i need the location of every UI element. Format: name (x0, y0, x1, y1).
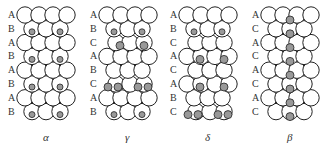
interstitial-atom (220, 55, 228, 63)
interstitial-atom (286, 30, 294, 38)
interstitial-atom (286, 16, 294, 24)
interstitial-atom (140, 42, 148, 50)
atom-stack-beta (244, 0, 326, 155)
panel-delta: ABCACABCδ (162, 0, 244, 155)
phase-label: δ (205, 131, 210, 143)
interstitial-atom (220, 83, 228, 91)
interstitial-atom (219, 29, 225, 35)
interstitial-atom (104, 83, 112, 91)
atom-circle (303, 7, 319, 23)
phase-label: α (43, 131, 49, 143)
interstitial-atom (286, 71, 294, 79)
interstitial-atom (29, 56, 35, 62)
interstitial-atom (184, 111, 192, 119)
atom-circle (221, 7, 237, 23)
interstitial-atom (57, 29, 63, 35)
interstitial-atom (286, 85, 294, 93)
interstitial-atom (144, 83, 152, 91)
interstitial-atom (191, 29, 197, 35)
interstitial-atom (224, 111, 232, 119)
interstitial-atom (286, 57, 294, 65)
atom-circle (59, 7, 75, 23)
interstitial-atom (196, 83, 204, 91)
interstitial-atom (286, 113, 294, 121)
interstitial-atom (57, 112, 63, 118)
panel-gamma: ABCABCABγ (82, 0, 164, 155)
interstitial-atom (29, 29, 35, 35)
interstitial-atom (214, 111, 222, 119)
interstitial-atom (111, 29, 117, 35)
interstitial-atom (29, 84, 35, 90)
interstitial-atom (286, 44, 294, 52)
phase-label: β (287, 131, 292, 143)
interstitial-atom (139, 29, 145, 35)
atom-stack-delta (162, 0, 244, 155)
interstitial-atom (57, 84, 63, 90)
atom-circle (141, 7, 157, 23)
interstitial-atom (114, 83, 122, 91)
panel-alpha: ABABABABα (0, 0, 82, 155)
atom-stack-alpha (0, 0, 82, 155)
interstitial-atom (134, 83, 142, 91)
interstitial-atom (286, 99, 294, 107)
panel-beta: ACACACACβ (244, 0, 326, 155)
interstitial-atom (57, 56, 63, 62)
phase-label: γ (125, 131, 129, 143)
interstitial-atom (196, 55, 204, 63)
interstitial-atom (194, 111, 202, 119)
interstitial-atom (116, 42, 124, 50)
interstitial-atom (29, 112, 35, 118)
interstitial-atom (139, 112, 145, 118)
atom-stack-gamma (82, 0, 164, 155)
interstitial-atom (111, 112, 117, 118)
